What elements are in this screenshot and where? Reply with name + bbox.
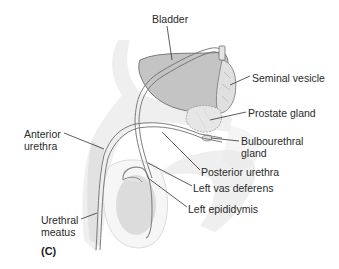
- label-prostate-gland: Prostate gland: [248, 107, 316, 119]
- label-seminal-vesicle: Seminal vesicle: [252, 72, 325, 84]
- label-anterior-urethra-line2: urethra: [24, 140, 57, 152]
- label-bulbourethral-gland-line2: gland: [241, 147, 267, 159]
- label-urethral-meatus-line1: Urethral: [41, 214, 78, 226]
- label-urethral-meatus-line2: meatus: [41, 226, 75, 238]
- anatomy-diagram: Bladder Seminal vesicle Prostate gland A…: [0, 0, 339, 269]
- panel-label: (C): [41, 245, 56, 257]
- label-posterior-urethra: Posterior urethra: [201, 166, 279, 178]
- label-anterior-urethra-line1: Anterior: [24, 128, 61, 140]
- label-left-epididymis: Left epididymis: [188, 203, 258, 215]
- label-bulbourethral-gland-line1: Bulbourethral: [241, 135, 303, 147]
- label-bladder: Bladder: [152, 13, 188, 25]
- label-left-vas-deferens: Left vas deferens: [193, 182, 274, 194]
